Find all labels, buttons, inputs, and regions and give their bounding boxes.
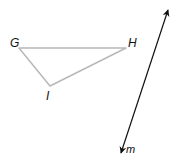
geometry-diagram: G H I m <box>0 0 188 161</box>
triangle-ghi <box>19 48 126 86</box>
vertex-label-i: I <box>46 89 50 103</box>
vertex-label-g: G <box>10 36 19 50</box>
line-m <box>121 10 168 153</box>
line-label-m: m <box>126 143 135 155</box>
vertex-label-h: H <box>128 36 137 50</box>
